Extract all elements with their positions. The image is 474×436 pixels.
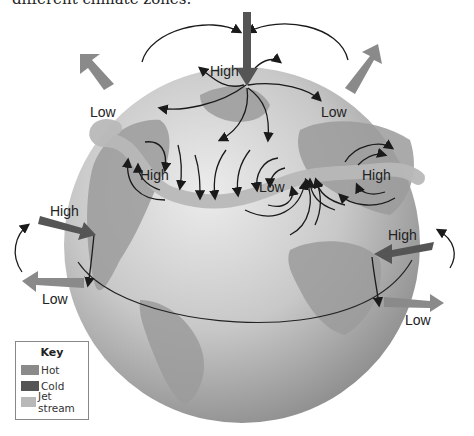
- label-high-left: High: [50, 203, 79, 219]
- label-low-left: Low: [42, 291, 69, 307]
- legend-title: Key: [21, 346, 83, 359]
- flow-arrow: [438, 230, 454, 268]
- label-high-mid-left: High: [140, 167, 169, 183]
- label-low-top-left: Low: [90, 104, 117, 120]
- label-high-right: High: [388, 227, 417, 243]
- legend-label: Hot: [41, 364, 59, 376]
- hot-swatch: [21, 365, 39, 375]
- hot-arrow-top-left: [80, 54, 114, 90]
- flow-arrow: [255, 60, 280, 68]
- legend-item-jet-stream: Jet stream: [21, 394, 83, 410]
- label-low-mid: Low: [259, 179, 286, 195]
- flow-arrow: [248, 24, 348, 60]
- legend: Key Hot Cold Jet stream: [15, 341, 89, 420]
- label-high-top: High: [210, 63, 239, 79]
- flow-arrow: [15, 225, 28, 272]
- label-low-top-right: Low: [321, 104, 348, 120]
- flow-arrow: [142, 25, 240, 62]
- cold-swatch: [21, 381, 39, 391]
- label-low-right: Low: [405, 312, 432, 328]
- hot-arrow-top-right: [345, 44, 382, 94]
- label-high-mid-right: High: [362, 167, 391, 183]
- legend-label: Jet stream: [38, 390, 83, 414]
- legend-item-hot: Hot: [21, 362, 83, 378]
- jet-stream-swatch: [21, 397, 36, 407]
